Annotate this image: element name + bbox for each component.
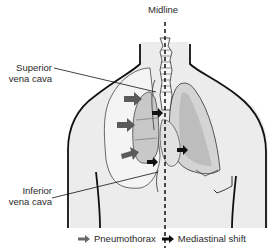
superior-vena-cava-label: Superior vena cava [2, 62, 52, 84]
pneumothorax-diagram: Midline Superior vena cava Inferior vena… [0, 0, 273, 249]
ivc-label-line2: vena cava [2, 196, 52, 207]
arrow-right-icon [78, 235, 90, 243]
arrow-right-icon [162, 235, 174, 243]
midline-label: Midline [148, 4, 178, 15]
ivc-label-line1: Inferior [2, 185, 52, 196]
svc-label-line2: vena cava [2, 73, 52, 84]
legend-item-pneumothorax: Pneumothorax [78, 233, 156, 244]
legend-label: Pneumothorax [94, 233, 156, 244]
trachea [160, 38, 172, 110]
torso-illustration [0, 0, 273, 249]
legend-label: Mediastinal shift [178, 233, 246, 244]
legend-item-mediastinal-shift: Mediastinal shift [162, 233, 246, 244]
inferior-vena-cava-label: Inferior vena cava [2, 185, 52, 207]
svc-label-line1: Superior [2, 62, 52, 73]
legend: Pneumothorax Mediastinal shift [78, 233, 252, 244]
